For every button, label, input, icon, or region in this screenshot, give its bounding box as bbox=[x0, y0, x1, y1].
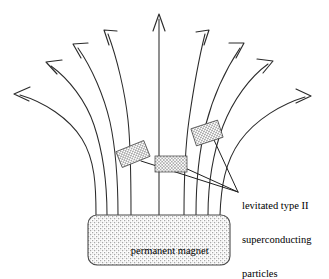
leader-to-particle-right bbox=[214, 140, 238, 192]
diagram-root: permanent magnet levitated type II super… bbox=[0, 0, 329, 279]
fieldline-1 bbox=[14, 87, 96, 215]
particle-center bbox=[155, 156, 187, 172]
callout-label: levitated type II superconducting partic… bbox=[242, 177, 311, 279]
callout-line-1: levitated type II bbox=[242, 200, 311, 211]
magnet-label-text: permanent magnet bbox=[131, 245, 209, 256]
particle-left bbox=[116, 140, 150, 167]
callout-line-3: particles bbox=[242, 268, 311, 279]
callout-line-2: superconducting bbox=[242, 234, 311, 245]
fieldline-2 bbox=[46, 60, 107, 215]
particles-group bbox=[116, 120, 223, 172]
fieldline-5 bbox=[153, 14, 165, 215]
